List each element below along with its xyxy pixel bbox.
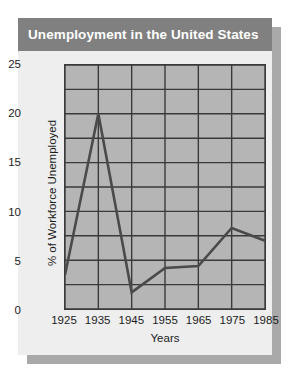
plot-area [64, 64, 266, 310]
x-axis-title: Years [64, 332, 266, 344]
chart-title-bar: Unemployment in the United States [18, 18, 272, 51]
chart-card: Unemployment in the United States 051015… [18, 18, 272, 355]
x-axis-tick-1985: 1985 [246, 314, 286, 326]
y-axis-tick-10: 10 [0, 206, 21, 218]
page-title: Unemployment in the United States [18, 27, 259, 42]
y-axis-tick-25: 25 [0, 58, 21, 70]
y-axis-tick-20: 20 [0, 107, 21, 119]
data-series-line [65, 65, 265, 309]
y-axis-tick-5: 5 [0, 255, 21, 267]
chart-region: 0510152025 1925193519451955196519751985 … [18, 51, 272, 355]
y-axis-title: % of Workforce Unemployed [46, 93, 58, 293]
y-axis-tick-15: 15 [0, 156, 21, 168]
y-axis-tick-0: 0 [0, 304, 21, 316]
